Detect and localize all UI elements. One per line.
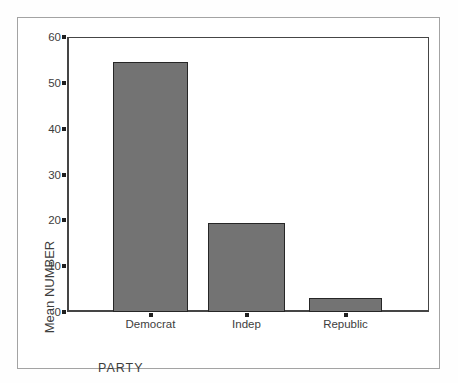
x-category-label: Republic [301,317,391,331]
y-tick-label: 40 [31,122,61,136]
bar-democrat [113,62,188,312]
y-tick-label: 50 [31,76,61,90]
y-tick-mark [62,218,66,222]
x-category-label: Indep [202,317,292,331]
y-tick-mark [62,81,66,85]
y-tick-mark [62,173,66,177]
y-tick-mark [62,310,66,314]
bar-indep [208,223,285,312]
y-tick-label: 10 [31,259,61,273]
y-tick-label: 30 [31,168,61,182]
y-tick-label: 60 [31,30,61,44]
y-axis-title: Mean NUMBER [42,232,58,342]
y-tick-label: 20 [31,213,61,227]
bar-republic [309,298,382,312]
y-tick-mark [62,127,66,131]
x-axis-title: PARTY [98,361,144,375]
y-tick-mark [62,35,66,39]
chart-canvas: Mean NUMBER PARTY 0102030405060DemocratI… [0,0,458,383]
y-tick-label: 0 [31,305,61,319]
y-tick-mark [62,264,66,268]
x-category-label: Democrat [106,317,196,331]
